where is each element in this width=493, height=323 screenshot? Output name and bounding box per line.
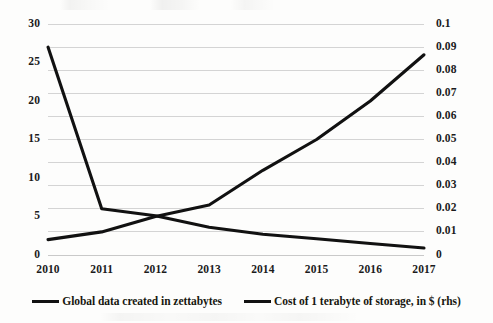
x-axis-tick-label: 2016 [350,263,390,275]
x-axis-tick-label: 2010 [28,263,68,275]
y-axis-right-tick-label: 0 [436,248,476,260]
series-line-storage-cost [48,47,424,248]
y-axis-left-tick-label: 5 [14,209,40,221]
x-axis-tick-label: 2013 [189,263,229,275]
gridlines [48,24,424,255]
x-axis-tick-label: 2017 [404,263,444,275]
legend-entry: Global data created in zettabytes [32,295,222,307]
y-axis-left-tick-label: 0 [14,248,40,260]
x-axis-tick-label: 2015 [297,263,337,275]
y-axis-left-tick-label: 15 [14,132,40,144]
series-lines [48,47,424,248]
legend-line-swatch [32,300,59,303]
x-axis-tick-label: 2011 [82,263,122,275]
chart-figure: 051015202530 00.010.020.030.040.050.060.… [0,0,493,323]
y-axis-right-tick-label: 0.02 [436,201,476,213]
y-axis-right-tick-label: 0.1 [436,17,476,29]
legend-entry: Cost of 1 terabyte of storage, in $ (rhs… [244,295,461,307]
y-axis-left-tick-label: 10 [14,171,40,183]
y-axis-right-tick-label: 0.07 [436,86,476,98]
y-axis-right-tick-label: 0.01 [436,224,476,236]
legend-label: Global data created in zettabytes [62,295,222,307]
y-axis-right-tick-label: 0.04 [436,155,476,167]
legend-label: Cost of 1 terabyte of storage, in $ (rhs… [274,295,461,307]
y-axis-left-tick-label: 30 [14,17,40,29]
y-axis-right-tick-label: 0.03 [436,178,476,190]
legend-line-swatch [244,300,271,303]
x-axis-tick-label: 2014 [243,263,283,275]
y-axis-right-tick-label: 0.05 [436,132,476,144]
chart-legend: Global data created in zettabytesCost of… [0,291,493,311]
x-axis-tick-label: 2012 [135,263,175,275]
y-axis-right-tick-label: 0.09 [436,40,476,52]
y-axis-left-tick-label: 25 [14,55,40,67]
y-axis-right-tick-label: 0.06 [436,109,476,121]
y-axis-left-tick-label: 20 [14,94,40,106]
y-axis-right-tick-label: 0.08 [436,63,476,75]
series-line-global-data [48,55,424,240]
